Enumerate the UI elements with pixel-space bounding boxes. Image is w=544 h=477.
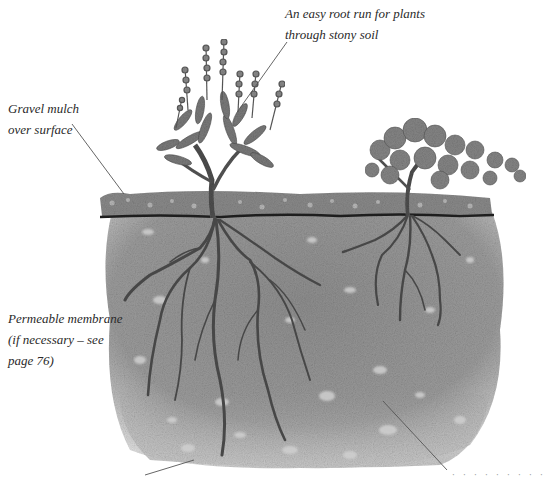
soil-layer [105,212,503,468]
annotation-root-run-line-2: through stony soil [285,24,425,45]
illustration [0,0,544,477]
gravel-mulch-band [100,191,492,216]
annotation-permeable-membrane: Permeable membrane (if necessary – see p… [8,308,122,371]
annotation-gravel-line-2: over surface [8,119,79,140]
annotation-membrane-line-2: (if necessary – see [8,329,122,350]
annotation-bottom-right-cropped: · · · · · · · · · [452,464,544,477]
leader-bottom-left [145,460,194,475]
leader-root-run [240,42,287,108]
annotation-root-run-line-1: An easy root run for plants [285,3,425,24]
leader-gravel [72,124,124,194]
annotation-gravel-mulch: Gravel mulch over surface [8,98,79,140]
annotation-gravel-line-1: Gravel mulch [8,98,79,119]
annotation-membrane-line-1: Permeable membrane [8,308,122,329]
annotation-membrane-line-3: page 76) [8,350,122,371]
annotation-root-run: An easy root run for plants through ston… [285,3,425,45]
